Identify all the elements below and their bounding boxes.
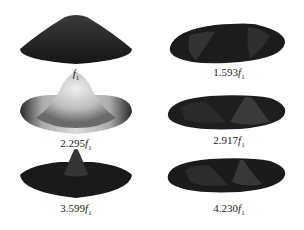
mode-5-label: 3.599f1 (36, 202, 116, 217)
mode-2-label: 1.593f1 (189, 66, 269, 81)
mode-1-label: f1 (36, 67, 116, 82)
mode-1-shape (0, 0, 304, 230)
mode-6-label: 4.230f1 (189, 202, 269, 217)
mode-3-label: 2.295f1 (36, 137, 116, 152)
mode-4-label: 2.917f1 (189, 134, 269, 149)
